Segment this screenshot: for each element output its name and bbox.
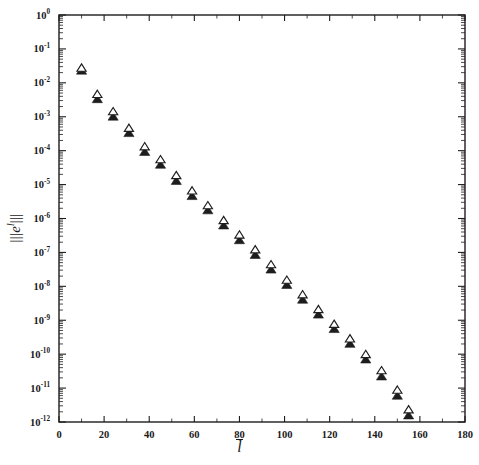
data-point-open-triangle — [404, 406, 413, 413]
data-point-open-triangle — [140, 143, 149, 150]
y-tick-label: 10-7 — [34, 246, 51, 258]
plot-frame — [59, 15, 465, 422]
data-point-open-triangle — [393, 386, 402, 393]
y-tick-label: 10-9 — [34, 314, 51, 326]
y-axis-norm-bars-right: ||| — [7, 214, 23, 224]
data-point-open-triangle — [235, 231, 244, 238]
data-point-open-triangle — [298, 291, 307, 298]
data-point-open-triangle — [282, 276, 291, 283]
data-point-open-triangle — [219, 216, 228, 223]
y-tick-label: 100 — [36, 8, 51, 20]
y-tick-label: 10-8 — [34, 280, 51, 292]
figure-root: 02040608010012014016018010010-110-210-31… — [0, 0, 479, 465]
data-point-open-triangle — [203, 201, 212, 208]
data-point-open-triangle — [124, 124, 133, 131]
data-point-open-triangle — [77, 64, 86, 71]
data-point-open-triangle — [187, 187, 196, 194]
data-point-open-triangle — [251, 246, 260, 253]
data-point-open-triangle — [314, 305, 323, 312]
y-axis-norm-bars-left: ||| — [7, 233, 23, 243]
y-tick-label: 10-12 — [30, 415, 50, 427]
y-tick-label: 10-1 — [34, 42, 51, 54]
x-axis-title: l — [0, 438, 479, 456]
y-tick-label: 10-10 — [30, 347, 50, 359]
y-tick-label: 10-6 — [34, 212, 51, 224]
data-point-open-triangle — [377, 366, 386, 373]
data-point-open-triangle — [172, 171, 181, 178]
y-tick-label: 10-2 — [34, 76, 51, 88]
y-axis-ticks: 10010-110-210-310-410-510-610-710-810-91… — [30, 8, 465, 427]
y-tick-label: 10-4 — [34, 144, 51, 156]
y-axis-title: |||el||| — [2, 168, 28, 288]
scatter-plot-canvas: 02040608010012014016018010010-110-210-31… — [0, 0, 479, 465]
y-tick-label: 10-11 — [30, 381, 50, 393]
data-markers — [76, 64, 413, 419]
data-point-open-triangle — [266, 260, 275, 267]
data-point-open-triangle — [109, 107, 118, 114]
y-axis-superscript: l — [6, 223, 16, 226]
y-axis-base-symbol: e — [7, 226, 23, 233]
data-point-open-triangle — [93, 90, 102, 97]
data-point-open-triangle — [330, 320, 339, 327]
x-axis-overbar — [236, 439, 242, 440]
data-point-open-triangle — [345, 335, 354, 342]
x-axis-title-text: l — [237, 438, 241, 455]
y-tick-label: 10-5 — [34, 178, 51, 190]
data-point-open-triangle — [361, 350, 370, 357]
x-axis-ticks: 020406080100120140160180 — [56, 15, 473, 440]
data-point-open-triangle — [156, 155, 165, 162]
y-tick-label: 10-3 — [34, 110, 51, 122]
